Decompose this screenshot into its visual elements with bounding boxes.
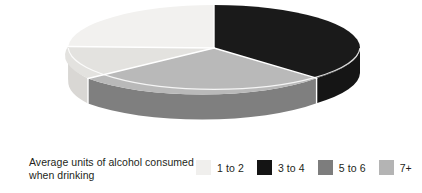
legend-swatch-7plus [379,160,394,175]
caption-line-1: Average units of alcohol consumed [29,156,194,169]
chart-caption: Average units of alcohol consumed when d… [29,156,194,182]
pie-slice-1to2 [68,5,214,48]
chart-legend: 1 to 2 3 to 4 5 to 6 7+ [196,160,422,175]
caption-line-2: when drinking [29,169,194,182]
legend-label-7plus: 7+ [400,162,412,174]
legend-label-5to6: 5 to 6 [339,162,366,174]
legend-item-5to6[interactable]: 5 to 6 [318,160,366,175]
legend-item-3to4[interactable]: 3 to 4 [257,160,305,175]
pie-chart-figure: Average units of alcohol consumed when d… [0,0,422,193]
legend-label-3to4: 3 to 4 [278,162,305,174]
legend-swatch-5to6 [318,160,333,175]
legend-item-1to2[interactable]: 1 to 2 [196,160,244,175]
legend-swatch-1to2 [196,160,211,175]
legend-swatch-3to4 [257,160,272,175]
legend-item-7plus[interactable]: 7+ [379,160,412,175]
legend-label-1to2: 1 to 2 [217,162,244,174]
